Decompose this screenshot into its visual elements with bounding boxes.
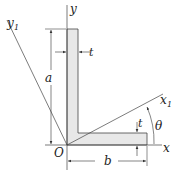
theta-arc	[147, 107, 154, 144]
x1-axis-sub: 1	[167, 100, 172, 109]
l-section-diagram: a b t t θ y x y 1 x 1 O	[0, 0, 173, 172]
t-right-label: t	[138, 117, 143, 130]
origin-label: O	[54, 146, 64, 160]
x-axis-label: x	[163, 141, 170, 155]
theta-label: θ	[155, 119, 163, 133]
l-shape	[67, 29, 147, 145]
y1-axis-sub: 1	[14, 23, 19, 32]
x1-axis-label: x	[160, 93, 167, 107]
y-axis-label: y	[69, 2, 77, 16]
y1-axis-line	[7, 20, 67, 145]
dim-b-label: b	[104, 154, 112, 168]
dim-a-label: a	[45, 71, 52, 85]
t-top-label: t	[89, 46, 94, 59]
y1-axis-label: y	[6, 16, 14, 30]
